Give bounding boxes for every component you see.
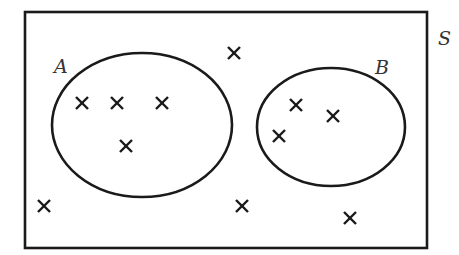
universal-set-label: S: [438, 27, 451, 49]
outside-elements-layer: [38, 47, 356, 224]
universal-set-rectangle: [25, 12, 427, 248]
set-b-element-mark: [290, 99, 302, 111]
sets-layer: AB: [52, 53, 405, 197]
outside-element-mark: [236, 200, 248, 212]
set-b-element-mark: [327, 110, 339, 122]
venn-diagram: S AB: [0, 0, 459, 255]
set-b-element-mark: [273, 130, 285, 142]
outside-element-mark: [344, 212, 356, 224]
set-a-element-mark: [156, 97, 168, 109]
set-a-label: A: [52, 55, 68, 77]
set-a: A: [52, 53, 232, 197]
set-b-label: B: [374, 56, 389, 78]
set-a-element-mark: [76, 97, 88, 109]
set-a-element-mark: [111, 97, 123, 109]
set-b-ellipse: [257, 68, 405, 186]
set-a-element-mark: [120, 140, 132, 152]
outside-element-mark: [228, 47, 240, 59]
outside-element-mark: [38, 200, 50, 212]
set-a-ellipse: [52, 53, 232, 197]
set-b: B: [257, 56, 405, 186]
